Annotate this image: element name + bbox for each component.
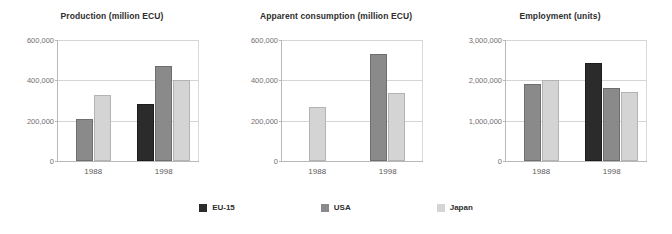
plot-area-employment: 01,000,0002,000,0003,000,00019881998 bbox=[505, 40, 647, 162]
legend-label: Japan bbox=[450, 203, 473, 212]
gridline bbox=[506, 40, 647, 41]
legend-item-japan: Japan bbox=[437, 203, 473, 212]
bar-usa-1998 bbox=[370, 54, 387, 161]
y-axis-tick-label: 0 bbox=[50, 157, 54, 166]
y-axis-tick-label: 3,000,000 bbox=[469, 36, 502, 45]
legend-swatch-icon bbox=[437, 204, 445, 212]
bar-eu-15-1998 bbox=[585, 63, 602, 161]
gridline bbox=[506, 80, 647, 81]
chart-panel-apparent-consumption: Apparent consumption (million ECU) 0200,… bbox=[224, 0, 448, 196]
plot-frame-right bbox=[198, 40, 199, 161]
y-axis-tick bbox=[55, 40, 58, 41]
charts-container: Production (million ECU) 0200,000400,000… bbox=[0, 0, 672, 196]
legend-swatch-icon bbox=[199, 204, 207, 212]
y-axis-tick bbox=[503, 40, 506, 41]
x-axis-tick-label: 1998 bbox=[603, 167, 621, 176]
y-axis-tick-label: 1,000,000 bbox=[469, 116, 502, 125]
chart-panel-employment: Employment (units) 01,000,0002,000,0003,… bbox=[448, 0, 672, 196]
y-axis-tick-label: 600,000 bbox=[251, 36, 278, 45]
bar-usa-1998 bbox=[603, 88, 620, 161]
y-axis-tick-label: 200,000 bbox=[251, 116, 278, 125]
y-axis-tick-label: 0 bbox=[274, 157, 278, 166]
y-axis-tick-label: 2,000,000 bbox=[469, 76, 502, 85]
y-axis-tick bbox=[279, 80, 282, 81]
y-axis-tick-label: 600,000 bbox=[27, 36, 54, 45]
bar-eu-15-1998 bbox=[137, 104, 154, 161]
x-axis-tick-label: 1998 bbox=[155, 167, 173, 176]
x-axis-tick-label: 1988 bbox=[308, 167, 326, 176]
bar-usa-1998 bbox=[155, 66, 172, 161]
x-axis-tick-label: 1988 bbox=[84, 167, 102, 176]
y-axis-tick-label: 400,000 bbox=[27, 76, 54, 85]
bar-japan-1988 bbox=[94, 95, 111, 161]
bar-japan-1988 bbox=[309, 107, 326, 161]
bar-japan-1998 bbox=[173, 80, 190, 161]
y-axis-tick bbox=[55, 80, 58, 81]
legend-swatch-icon bbox=[321, 204, 329, 212]
plot-frame-right bbox=[422, 40, 423, 161]
y-axis-tick bbox=[55, 121, 58, 122]
legend-item-eu: EU-15 bbox=[199, 203, 235, 212]
y-axis-tick bbox=[55, 161, 58, 162]
x-axis-tick-label: 1998 bbox=[379, 167, 397, 176]
chart-title: Apparent consumption (million ECU) bbox=[224, 11, 448, 21]
y-axis-tick bbox=[503, 80, 506, 81]
y-axis-tick bbox=[279, 40, 282, 41]
legend-label: USA bbox=[334, 203, 351, 212]
y-axis-tick bbox=[279, 121, 282, 122]
y-axis-tick-label: 200,000 bbox=[27, 116, 54, 125]
bar-usa-1988 bbox=[76, 119, 93, 161]
legend-label: EU-15 bbox=[212, 203, 235, 212]
legend-item-usa: USA bbox=[321, 203, 351, 212]
bar-japan-1998 bbox=[388, 93, 405, 161]
bar-usa-1988 bbox=[524, 84, 541, 161]
plot-area-apparent-consumption: 0200,000400,000600,00019881998 bbox=[281, 40, 423, 162]
y-axis-tick bbox=[503, 121, 506, 122]
gridline bbox=[282, 80, 423, 81]
chart-panel-production: Production (million ECU) 0200,000400,000… bbox=[0, 0, 224, 196]
plot-area-production: 0200,000400,000600,00019881998 bbox=[57, 40, 199, 162]
bar-japan-1988 bbox=[542, 80, 559, 161]
y-axis-tick-label: 0 bbox=[498, 157, 502, 166]
y-axis-tick bbox=[279, 161, 282, 162]
y-axis-tick bbox=[503, 161, 506, 162]
y-axis-tick-label: 400,000 bbox=[251, 76, 278, 85]
plot-frame-right bbox=[646, 40, 647, 161]
gridline bbox=[58, 40, 199, 41]
bar-japan-1998 bbox=[621, 92, 638, 161]
gridline bbox=[282, 40, 423, 41]
chart-title: Employment (units) bbox=[448, 11, 672, 21]
chart-legend: EU-15USAJapan bbox=[0, 203, 672, 212]
x-axis-tick-label: 1988 bbox=[532, 167, 550, 176]
chart-title: Production (million ECU) bbox=[0, 11, 224, 21]
